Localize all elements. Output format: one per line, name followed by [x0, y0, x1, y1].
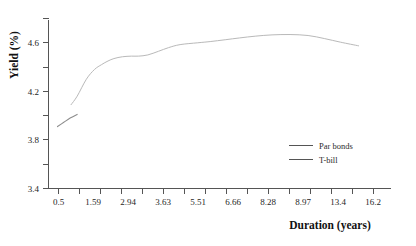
y-tick-label-1: 4.2 [28, 87, 39, 97]
x-tick-label-6: 8.28 [260, 197, 276, 207]
x-tick-label-7: 8.97 [295, 197, 311, 207]
legend-label-t-bill: T-bill [319, 155, 338, 165]
series-line-t-bill [58, 114, 78, 126]
legend-label-par-bonds: Par bonds [319, 141, 353, 151]
yield-curve-chart: 4.6 4.2 3.8 3.4 0.5 1.59 2.94 3.63 [0, 0, 416, 246]
x-tick-label-9: 16.2 [365, 197, 381, 207]
y-tick-label-0: 4.6 [28, 38, 40, 48]
y-axis-ticks [43, 19, 49, 189]
x-tick-label-1: 1.59 [85, 197, 101, 207]
x-axis-ticks [59, 189, 374, 195]
x-tick-label-2: 2.94 [120, 197, 136, 207]
x-tick-label-4: 5.51 [190, 197, 206, 207]
chart-legend: Par bonds T-bill [289, 141, 353, 165]
x-axis-title: Duration (years) [289, 219, 371, 232]
y-tick-label-3: 3.4 [28, 184, 40, 194]
y-axis-title: Yield (%) [8, 31, 21, 79]
x-tick-label-0: 0.5 [53, 197, 65, 207]
chart-figure: 4.6 4.2 3.8 3.4 0.5 1.59 2.94 3.63 [0, 0, 416, 246]
series-line-par-bonds [71, 35, 359, 105]
y-tick-label-2: 3.8 [28, 135, 40, 145]
x-tick-label-5: 6.66 [225, 197, 241, 207]
x-tick-label-3: 3.63 [155, 197, 171, 207]
x-tick-label-8: 13.4 [330, 197, 346, 207]
